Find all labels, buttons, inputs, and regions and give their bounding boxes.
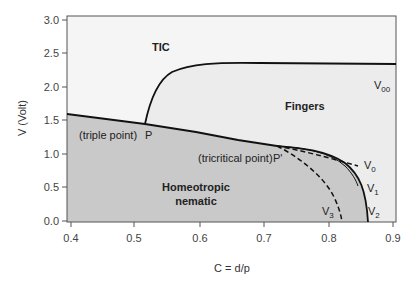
- x-tick-0-9: 0.9: [385, 232, 400, 244]
- x-tick-labels: 0.4 0.5 0.6 0.7 0.8 0.9: [63, 232, 400, 244]
- x-tick-0-8: 0.8: [321, 232, 336, 244]
- y-tick-2: 2.0: [44, 81, 59, 93]
- y-tick-labels: 0.0 0.5 1.0 1.5 2.0 2.5 3.0: [44, 14, 59, 227]
- x-axis: [71, 222, 393, 227]
- tic-label: TIC: [152, 41, 170, 53]
- nematic-label: nematic: [175, 195, 217, 207]
- x-tick-0-7: 0.7: [256, 232, 271, 244]
- x-axis-title: C = d/p: [214, 262, 250, 274]
- fingers-label: Fingers: [285, 100, 325, 112]
- y-tick-1: 1.0: [44, 148, 59, 160]
- y-tick-3: 3.0: [44, 14, 59, 26]
- y-tick-0: 0.0: [44, 215, 59, 227]
- y-tick-2-5: 2.5: [44, 47, 59, 59]
- y-tick-0-5: 0.5: [44, 181, 59, 193]
- x-tick-0-5: 0.5: [126, 232, 141, 244]
- x-tick-0-6: 0.6: [192, 232, 207, 244]
- y-axis-title: V (Volt): [16, 100, 28, 136]
- phase-diagram-chart: 0.0 0.5 1.0 1.5 2.0 2.5 3.0 0.4 0.5 0.6 …: [0, 0, 417, 284]
- tricritical-point-label: (tricritical point): [198, 152, 273, 164]
- point-p-prime-label: P': [273, 152, 282, 164]
- homeotropic-label: Homeotropic: [162, 181, 230, 193]
- point-p-label: P: [145, 129, 152, 141]
- triple-point-label: (triple point): [79, 129, 137, 141]
- x-tick-0-4: 0.4: [63, 232, 78, 244]
- y-tick-1-5: 1.5: [44, 114, 59, 126]
- y-axis: [62, 20, 67, 221]
